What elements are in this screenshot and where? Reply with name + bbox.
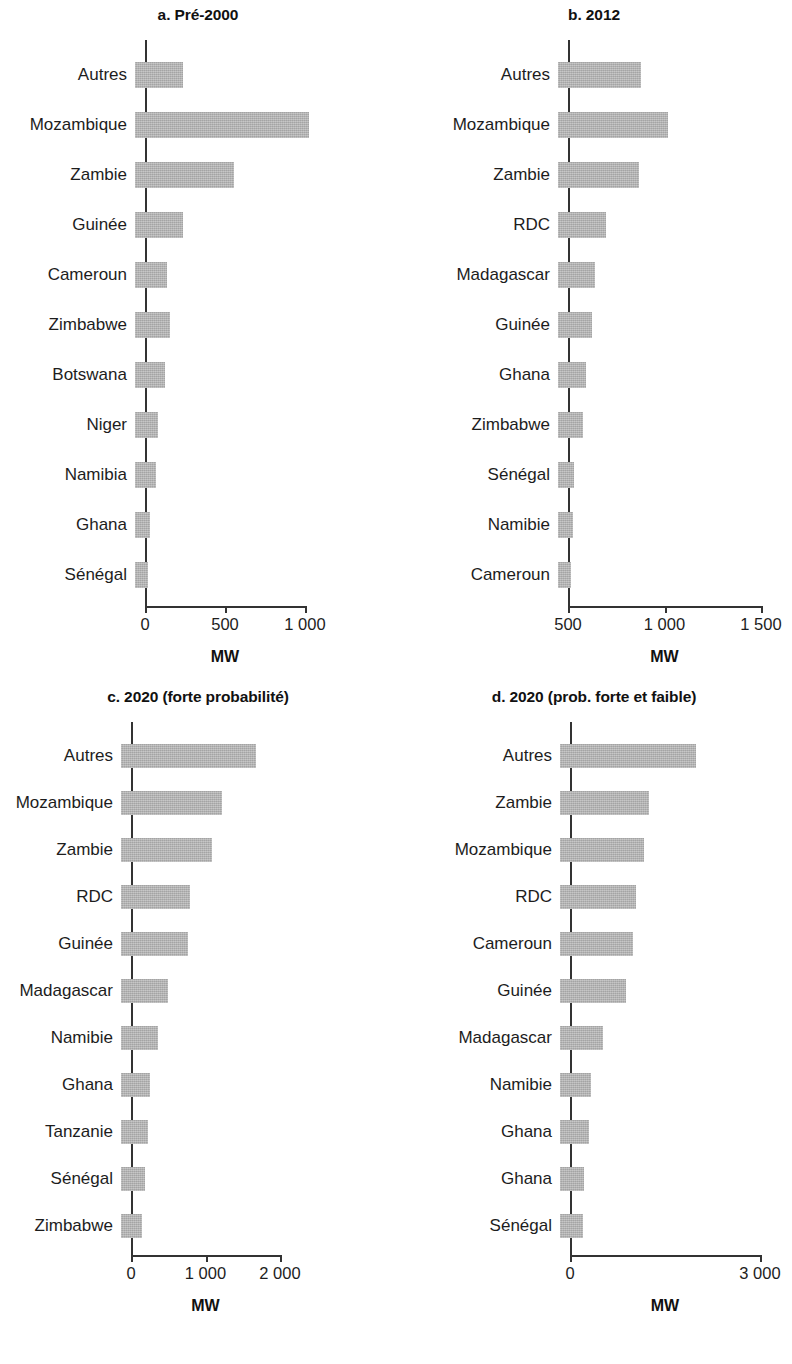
bar <box>135 112 309 138</box>
bar <box>135 312 170 338</box>
bar-row: Zimbabwe <box>0 1202 396 1249</box>
bar <box>560 885 636 909</box>
panel-b-axis-title: MW <box>650 648 678 666</box>
panel-c-axis-title: MW <box>191 1297 219 1315</box>
bar-row: Botswana <box>0 350 396 400</box>
bar-track <box>558 400 792 450</box>
panel-c-title: c. 2020 (forte probabilité) <box>0 688 396 706</box>
bar-row: Mozambique <box>396 100 792 150</box>
bar <box>558 462 574 488</box>
category-label: Guinée <box>0 215 135 235</box>
bar-row: Sénégal <box>0 1155 396 1202</box>
category-label: Mozambique <box>0 793 121 813</box>
bar <box>558 362 586 388</box>
bar-track <box>121 1108 396 1155</box>
category-label: Zimbabwe <box>0 1216 121 1236</box>
category-label: Guinée <box>396 981 560 1001</box>
axis-tick-label: 1 000 <box>284 615 325 634</box>
bar <box>558 512 573 538</box>
bar-track <box>121 967 396 1014</box>
category-label: Autres <box>396 746 560 766</box>
bar-track <box>135 500 396 550</box>
bar-row: Autres <box>0 732 396 779</box>
bar-row: Cameroun <box>0 250 396 300</box>
category-label: Ghana <box>0 515 135 535</box>
bar-track <box>121 1061 396 1108</box>
bar <box>135 362 165 388</box>
bar-row: Namibie <box>396 500 792 550</box>
bar <box>560 979 626 1003</box>
category-label: Tanzanie <box>0 1122 121 1142</box>
bar-row: Guinée <box>396 300 792 350</box>
category-label: Zimbabwe <box>396 415 558 435</box>
bar <box>121 1120 148 1144</box>
axis-tick-label: 0 <box>126 1264 135 1283</box>
category-label: Madagascar <box>396 1028 560 1048</box>
category-label: RDC <box>396 215 558 235</box>
panel-a-title: a. Pré-2000 <box>0 6 396 24</box>
bar <box>560 744 696 768</box>
bar-track <box>560 732 792 779</box>
axis-tick <box>305 606 307 613</box>
bar-row: Ghana <box>0 500 396 550</box>
axis-tick-label: 2 000 <box>259 1264 300 1283</box>
panel-c-rows: AutresMozambiqueZambieRDCGuinéeMadagasca… <box>0 732 396 1249</box>
bar-track <box>558 200 792 250</box>
axis-tick-label: 500 <box>211 615 239 634</box>
axis-tick-label: 1 000 <box>644 615 685 634</box>
axis-tick <box>280 1255 282 1262</box>
bar <box>560 1120 589 1144</box>
bar-track <box>558 350 792 400</box>
bar <box>558 262 595 288</box>
bar-track <box>558 550 792 600</box>
bar <box>121 979 168 1003</box>
category-label: Zambie <box>396 793 560 813</box>
category-label: Ghana <box>396 365 558 385</box>
axis-tick <box>206 1255 208 1262</box>
bar-track <box>560 1202 792 1249</box>
axis-tick <box>131 1255 133 1262</box>
panel-b-plot: AutresMozambiqueZambieRDCMadagascarGuiné… <box>396 40 792 682</box>
bar-row: Namibia <box>0 450 396 500</box>
panel-d-rows: AutresZambieMozambiqueRDCCamerounGuinéeM… <box>396 732 792 1249</box>
category-label: Mozambique <box>0 115 135 135</box>
axis-tick <box>145 606 147 613</box>
bar-row: Mozambique <box>0 100 396 150</box>
panel-c-plot: AutresMozambiqueZambieRDCGuinéeMadagasca… <box>0 722 396 1364</box>
bar-track <box>135 150 396 200</box>
panel-d-axis-title: MW <box>651 1297 679 1315</box>
bar-row: Zimbabwe <box>396 400 792 450</box>
bar-row: Niger <box>0 400 396 450</box>
category-label: Namibia <box>0 465 135 485</box>
panel-b: b. 2012 AutresMozambiqueZambieRDCMadagas… <box>396 0 792 682</box>
category-label: Autres <box>396 65 558 85</box>
bar <box>135 412 158 438</box>
category-label: Sénégal <box>396 1216 560 1236</box>
bar-row: Cameroun <box>396 550 792 600</box>
category-label: Madagascar <box>0 981 121 1001</box>
bar <box>135 162 234 188</box>
bar <box>558 562 571 588</box>
bar-row: Sénégal <box>396 450 792 500</box>
bar <box>135 262 167 288</box>
bar <box>560 1073 591 1097</box>
bar <box>135 212 183 238</box>
bar-row: Sénégal <box>396 1202 792 1249</box>
bar <box>121 791 222 815</box>
bar-track <box>135 300 396 350</box>
category-label: Guinée <box>396 315 558 335</box>
panel-b-title: b. 2012 <box>396 6 792 24</box>
bar-track <box>121 779 396 826</box>
axis-tick <box>570 1255 572 1262</box>
category-label: Namibie <box>0 1028 121 1048</box>
panel-d-plot: AutresZambieMozambiqueRDCCamerounGuinéeM… <box>396 722 792 1364</box>
bar-track <box>135 50 396 100</box>
bar-track <box>560 1061 792 1108</box>
category-label: Autres <box>0 65 135 85</box>
bar-row: Madagascar <box>396 1014 792 1061</box>
bar <box>135 512 150 538</box>
axis-tick-label: 500 <box>554 615 582 634</box>
axis-tick <box>761 606 763 613</box>
bar-track <box>121 826 396 873</box>
bar-row: Autres <box>396 50 792 100</box>
